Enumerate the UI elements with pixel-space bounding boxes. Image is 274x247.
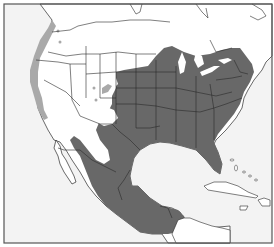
- range-secondary-spot: [59, 41, 62, 44]
- range-map: [0, 0, 274, 247]
- range-secondary-spot: [95, 99, 98, 102]
- range-secondary-spot: [93, 87, 96, 90]
